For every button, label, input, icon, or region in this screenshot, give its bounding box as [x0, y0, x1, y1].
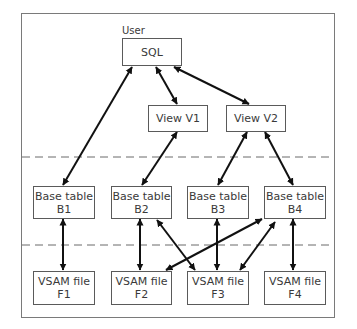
node-sql: SQL	[122, 38, 182, 66]
arrow-b2-f3	[157, 220, 195, 270]
node-b1-line2: B1	[57, 203, 72, 216]
node-vsam-file-f3: VSAM file F3	[187, 271, 249, 305]
node-f4-line1: VSAM file	[269, 275, 321, 288]
arrow-b4-f3	[240, 222, 275, 270]
node-f2-line2: F2	[135, 288, 148, 301]
arrow-v1-b2	[142, 132, 177, 185]
node-view-v1: View V1	[148, 105, 208, 132]
node-view-v2-label: View V2	[234, 112, 278, 125]
node-base-table-b2: Base table B2	[111, 186, 172, 219]
node-f1-line2: F1	[57, 288, 70, 301]
node-sql-label: SQL	[141, 46, 163, 59]
node-f2-line1: VSAM file	[116, 275, 168, 288]
node-f1-line1: VSAM file	[38, 275, 90, 288]
node-vsam-file-f4: VSAM file F4	[264, 271, 326, 305]
node-b4-line1: Base table	[266, 190, 324, 203]
node-f4-line2: F4	[288, 288, 301, 301]
node-view-v2: View V2	[226, 105, 286, 132]
arrow-sql-b1	[63, 67, 132, 185]
node-b3-line2: B3	[211, 203, 226, 216]
node-f3-line2: F3	[211, 288, 224, 301]
node-vsam-file-f2: VSAM file F2	[111, 271, 172, 305]
node-b1-line1: Base table	[35, 190, 93, 203]
node-base-table-b4: Base table B4	[264, 186, 326, 219]
node-view-v1-label: View V1	[156, 112, 200, 125]
node-vsam-file-f1: VSAM file F1	[33, 271, 95, 305]
arrow-sql-v2	[174, 67, 249, 104]
node-b4-line2: B4	[288, 203, 303, 216]
node-b2-line1: Base table	[112, 190, 170, 203]
arrow-v2-b3	[218, 132, 247, 185]
node-f3-line1: VSAM file	[192, 275, 244, 288]
user-label: User	[122, 25, 145, 36]
node-base-table-b3: Base table B3	[187, 186, 249, 219]
node-base-table-b1: Base table B1	[33, 186, 95, 219]
node-b2-line2: B2	[134, 203, 149, 216]
node-b3-line1: Base table	[189, 190, 247, 203]
arrow-v2-b4	[265, 132, 293, 185]
arrow-sql-v1	[156, 67, 177, 104]
